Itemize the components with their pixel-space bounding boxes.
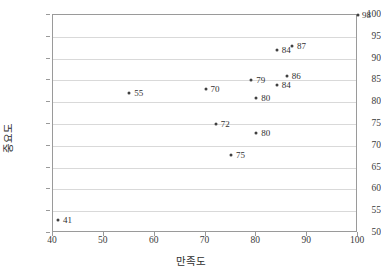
data-point-label: 86 — [292, 72, 301, 81]
gridline — [53, 80, 356, 81]
y-tick-mark — [46, 101, 50, 102]
data-point-label: 79 — [256, 76, 265, 85]
y-tick-mark — [46, 210, 50, 211]
data-point — [275, 83, 278, 86]
data-point — [214, 123, 217, 126]
x-tick-mark — [255, 232, 256, 236]
y-tick-mark — [46, 123, 50, 124]
x-tick-label: 70 — [190, 236, 220, 246]
data-point-label: 55 — [134, 89, 143, 98]
data-point-label: 84 — [282, 81, 291, 90]
x-tick-label: 60 — [139, 236, 169, 246]
gridline — [53, 124, 356, 125]
x-tick-mark — [103, 232, 104, 236]
gridline — [53, 189, 356, 190]
y-tick-mark — [46, 232, 50, 233]
y-tick-mark — [46, 188, 50, 189]
scatter-chart: 41557072757980808484868798 5055606570758… — [0, 0, 381, 275]
data-point-label: 72 — [221, 120, 230, 129]
data-point — [128, 92, 131, 95]
data-point — [285, 75, 288, 78]
y-tick-mark — [46, 14, 50, 15]
gridline — [53, 146, 356, 147]
data-point — [57, 218, 60, 221]
gridline — [53, 37, 356, 38]
y-tick-mark — [46, 79, 50, 80]
y-tick-mark — [46, 167, 50, 168]
data-point-label: 87 — [297, 42, 306, 51]
data-point — [255, 131, 258, 134]
data-point-label: 75 — [236, 151, 245, 160]
data-point-label: 41 — [63, 216, 72, 225]
x-tick-mark — [52, 232, 53, 236]
x-tick-mark — [306, 232, 307, 236]
data-point-label: 80 — [261, 94, 270, 103]
y-tick-label: 55 — [335, 206, 381, 216]
x-tick-label: 40 — [37, 236, 67, 246]
y-tick-label: 90 — [335, 53, 381, 63]
data-point — [255, 96, 258, 99]
y-axis-title: 중요도 — [0, 108, 15, 168]
y-tick-mark — [46, 58, 50, 59]
gridline — [53, 168, 356, 169]
x-axis-title: 만족도 — [0, 253, 381, 268]
x-tick-label: 80 — [240, 236, 270, 246]
data-point-label: 84 — [282, 46, 291, 55]
data-point-label: 80 — [261, 129, 270, 138]
y-tick-mark — [46, 145, 50, 146]
gridline — [53, 211, 356, 212]
x-tick-mark — [357, 232, 358, 236]
x-tick-label: 100 — [342, 236, 372, 246]
y-tick-mark — [46, 36, 50, 37]
y-tick-label: 100 — [335, 10, 381, 20]
plot-area: 41557072757980808484868798 — [52, 14, 357, 232]
y-tick-label: 95 — [335, 31, 381, 41]
y-tick-label: 80 — [335, 97, 381, 107]
x-tick-mark — [154, 232, 155, 236]
gridline — [53, 102, 356, 103]
data-point-label: 70 — [211, 85, 220, 94]
x-tick-mark — [205, 232, 206, 236]
data-point — [250, 79, 253, 82]
y-tick-label: 70 — [335, 140, 381, 150]
x-tick-label: 90 — [291, 236, 321, 246]
y-tick-label: 65 — [335, 162, 381, 172]
y-tick-label: 60 — [335, 184, 381, 194]
y-tick-label: 75 — [335, 119, 381, 129]
data-point — [275, 48, 278, 51]
gridline — [53, 59, 356, 60]
y-tick-label: 85 — [335, 75, 381, 85]
x-tick-label: 50 — [88, 236, 118, 246]
data-point — [229, 153, 232, 156]
data-point — [290, 44, 293, 47]
data-point — [204, 88, 207, 91]
